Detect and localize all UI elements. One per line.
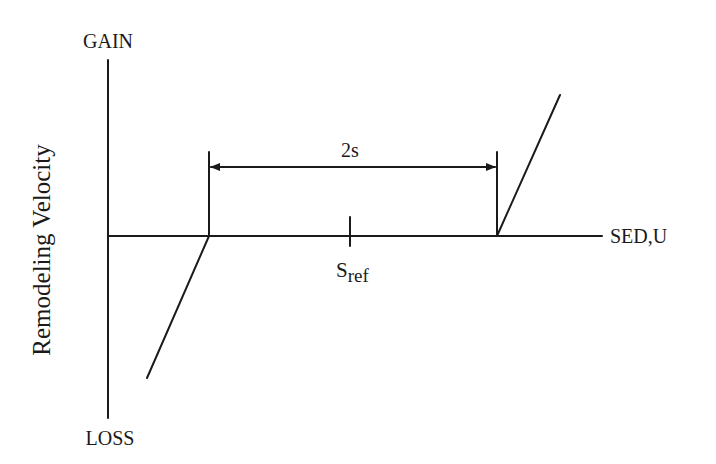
sref-label: Sref: [336, 258, 369, 286]
loss-label: LOSS: [86, 427, 135, 449]
resorption-branch-line: [147, 236, 209, 378]
sref-main: S: [336, 258, 348, 282]
x-axis-label: SED,U: [610, 225, 668, 247]
formation-branch-line: [497, 95, 560, 236]
remodeling-velocity-diagram: Remodeling Velocity GAIN LOSS SED,U 2s S…: [0, 0, 716, 464]
dead-zone-width-label: 2s: [341, 139, 359, 161]
gain-label: GAIN: [83, 30, 133, 52]
y-axis-label: Remodeling Velocity: [28, 144, 55, 356]
sref-subscript: ref: [348, 265, 370, 286]
